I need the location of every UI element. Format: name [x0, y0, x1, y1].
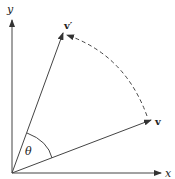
rotation-diagram: x y v v′ θ: [0, 0, 175, 179]
vector-v-prime-label: v′: [63, 20, 73, 31]
vector-v-label: v: [154, 116, 162, 127]
vector-v: [12, 120, 151, 173]
x-axis-label: x: [165, 167, 172, 179]
angle-label: θ: [25, 145, 32, 158]
y-axis-label: y: [6, 3, 14, 16]
vector-v-prime: [12, 33, 63, 173]
rotation-arc: [67, 35, 147, 116]
